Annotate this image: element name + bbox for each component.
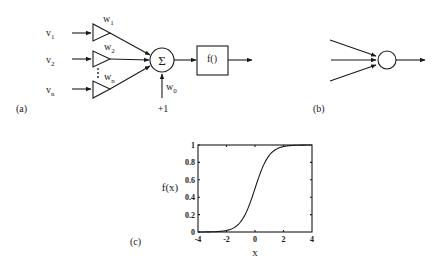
panel-a-label: (a) [16, 103, 27, 115]
y-tick-1: 1 [191, 141, 195, 150]
input-line-bottom [330, 65, 376, 81]
y-tick-0.8: 0.8 [185, 158, 195, 167]
weight-triangle-1 [93, 24, 110, 41]
sigmoid-curve [198, 145, 312, 232]
weight-w2-label: w2 [104, 41, 115, 55]
neural-network-figure: v1 v2 vn w1 w2 wn Σ w0 +1 [0, 0, 438, 264]
input-v2-label: v2 [46, 54, 55, 68]
activation-label: f() [207, 53, 217, 65]
bias-input-label: +1 [158, 103, 169, 114]
input-v1-label: v1 [46, 27, 55, 41]
ellipsis-dots [97, 68, 99, 78]
weight-wn-label: wn [104, 71, 115, 85]
input-line-top [330, 40, 376, 56]
weight-triangle-2 [93, 51, 110, 67]
x-axis-label: x [252, 246, 258, 258]
sigma-symbol: Σ [158, 53, 166, 68]
bias-weight-w0-label: w0 [166, 81, 177, 95]
weight-triangle-n [93, 81, 110, 98]
x-tick--4: -4 [195, 235, 202, 244]
x-tick-2: 2 [282, 235, 286, 244]
x-tick-0: 0 [253, 235, 257, 244]
neuron-node [378, 51, 396, 69]
panel-b-simplified-neuron: (b) [313, 40, 425, 115]
x-tick--2: -2 [223, 235, 230, 244]
y-tick-0.2: 0.2 [185, 211, 195, 220]
weighted-connection-2 [110, 59, 149, 60]
panel-a-neuron-model: v1 v2 vn w1 w2 wn Σ w0 +1 [16, 13, 252, 115]
x-tick-4: 4 [310, 235, 314, 244]
panel-c-sigmoid-plot: 0 0.2 0.4 0.6 0.8 1 -4 -2 0 2 4 x f(x) (… [130, 141, 314, 258]
y-tick-0.6: 0.6 [185, 176, 195, 185]
panel-b-label: (b) [313, 103, 325, 115]
weighted-connection-1 [110, 33, 150, 55]
y-tick-0.4: 0.4 [185, 193, 195, 202]
y-axis-label: f(x) [162, 181, 179, 194]
weighted-connection-n [110, 66, 150, 89]
panel-c-label: (c) [130, 236, 141, 248]
input-vn-label: vn [46, 84, 55, 98]
weight-w1-label: w1 [103, 13, 114, 27]
